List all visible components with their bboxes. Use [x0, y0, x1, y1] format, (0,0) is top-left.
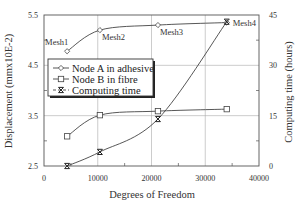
square-marker [58, 76, 63, 81]
x-tick-label: 20000 [142, 174, 162, 183]
legend-label: Node B in fibre [72, 74, 138, 85]
legend-label: Node A in adhesive [72, 63, 154, 74]
square-marker [155, 108, 160, 113]
legend: Node A in adhesiveNode B in fibreComputi… [48, 59, 155, 98]
x-tick-label: 40000 [249, 174, 269, 183]
y-axis-title: Displacement (mmx10E-2) [3, 33, 15, 148]
square-marker [64, 134, 69, 139]
x-tick-label: 0 [42, 174, 46, 183]
y2-tick-label: 45 [269, 11, 277, 20]
x-tick-label: 30000 [195, 174, 215, 183]
series-line [67, 109, 227, 136]
legend-label: Computing time [72, 85, 141, 96]
mesh-label: Mesh2 [102, 32, 125, 42]
y2-axis-title: Computing time (hours) [283, 41, 295, 143]
x-axis-title: Degrees of Freedom [109, 189, 195, 200]
y2-tick-label: 0 [269, 162, 273, 171]
mesh-label: Mesh1 [45, 37, 68, 47]
y-tick-label: 3.5 [28, 112, 38, 121]
square-marker [224, 106, 229, 111]
series-node-b-in-fibre [64, 106, 229, 139]
series-line [67, 23, 227, 52]
y-tick-label: 2.5 [28, 162, 38, 171]
mesh-label: Mesh4 [233, 18, 257, 28]
series-node-a-in-adhesive [65, 20, 230, 54]
y2-tick-label: 15 [269, 112, 277, 121]
chart: 0100002000030000400002.53.54.55.50153045… [0, 0, 300, 207]
x-marker [155, 116, 160, 121]
y2-tick-label: 30 [269, 61, 277, 70]
y-tick-label: 5.5 [28, 11, 38, 20]
square-marker [97, 112, 102, 117]
y-tick-label: 4.5 [28, 61, 38, 70]
x-marker [97, 149, 102, 154]
mesh-label: Mesh3 [160, 27, 183, 37]
x-tick-label: 10000 [88, 174, 108, 183]
